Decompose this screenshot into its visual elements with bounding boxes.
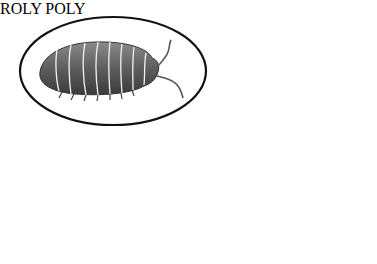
roly-poly-illustration (0, 0, 377, 264)
dark-roly-poly-large-icon (40, 40, 183, 101)
